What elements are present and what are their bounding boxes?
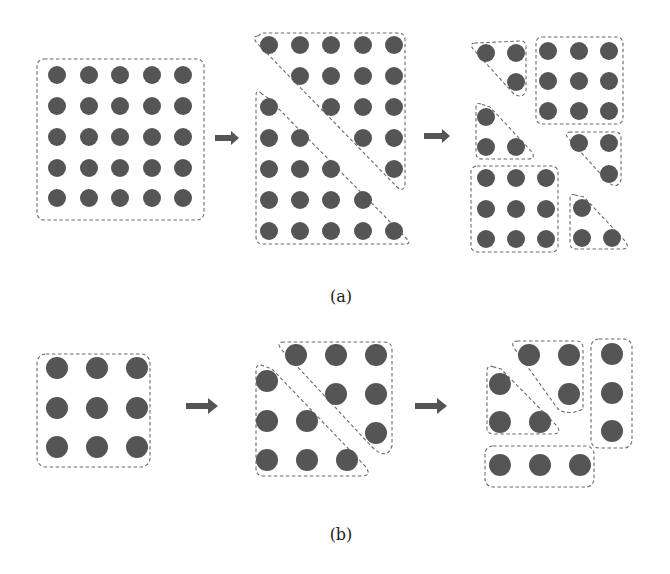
panel-a-stage1-grid (37, 59, 204, 220)
right-arrow-icon (415, 398, 447, 414)
panel-a: (a) (37, 33, 627, 306)
panel-b-stage1-grid (37, 354, 150, 467)
dots (260, 36, 403, 240)
right-arrow-icon (424, 129, 450, 143)
dots (46, 357, 148, 458)
dots (256, 344, 387, 471)
dots (477, 42, 621, 248)
dots (48, 66, 192, 207)
caption-a: (a) (330, 287, 352, 306)
panel-b-stage3-pieces (485, 339, 632, 487)
right-arrow-icon (215, 131, 239, 145)
panel-b: (b) (37, 339, 632, 544)
panel-a-stage3-pieces (471, 37, 627, 252)
caption-b: (b) (330, 525, 353, 544)
partition-diagram: (a) (0, 0, 670, 574)
dots (489, 343, 623, 476)
panel-b-stage2-triangles (256, 342, 392, 476)
right-arrow-icon (186, 398, 218, 414)
panel-a-stage2-triangles (254, 33, 408, 244)
